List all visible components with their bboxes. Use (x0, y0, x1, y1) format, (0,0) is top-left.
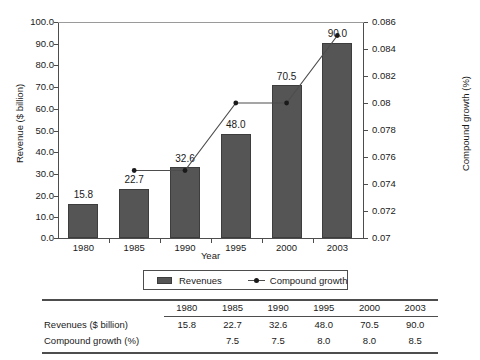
table-col-header-1985: 1985 (210, 300, 256, 317)
growth-marker-1995 (233, 101, 238, 106)
table-col-header-1980: 1980 (164, 300, 210, 317)
table-row-label-revenues: Revenues ($ billion) (42, 317, 164, 334)
legend-item-compound-growth: Compound growth (248, 275, 348, 286)
table-bottom-rule (42, 352, 438, 354)
legend-swatch-line-icon (248, 276, 265, 285)
table-row-label-compound-growth: Compound growth (%) (42, 333, 164, 349)
legend-label-revenues: Revenues (179, 275, 222, 286)
table-col-header-1990: 1990 (255, 300, 301, 317)
table-cell-revenues-1995: 48.0 (301, 317, 347, 334)
table-cell-growth-2003: 8.5 (392, 333, 438, 349)
table-corner-cell (42, 300, 164, 317)
table-cell-growth-1995: 8.0 (301, 333, 347, 349)
compound-growth-line (0, 0, 480, 268)
legend-swatch-bar-icon (157, 277, 172, 284)
table-cell-revenues-2003: 90.0 (392, 317, 438, 334)
table-col-header-2003: 2003 (392, 300, 438, 317)
table-cell-revenues-1980: 15.8 (164, 317, 210, 334)
table-col-header-1995: 1995 (301, 300, 347, 317)
growth-marker-1985 (132, 168, 137, 173)
table-cell-growth-1990: 7.5 (255, 333, 301, 349)
table-cell-growth-1985: 7.5 (210, 333, 256, 349)
chart-legend: Revenues Compound growth (143, 270, 348, 290)
table-header-row: 1980 1985 1990 1995 2000 2003 (42, 300, 438, 317)
table-cell-revenues-1985: 22.7 (210, 317, 256, 334)
chart-figure: Revenue ($ billion) Compound growth (%) … (0, 0, 480, 268)
legend-label-compound-growth: Compound growth (270, 275, 348, 286)
legend-item-revenues: Revenues (157, 275, 222, 286)
data-table: 1980 1985 1990 1995 2000 2003 Revenues (… (42, 300, 438, 349)
table-cell-revenues-1990: 32.6 (255, 317, 301, 334)
table-row: Revenues ($ billion) 15.8 22.7 32.6 48.0… (42, 317, 438, 334)
table-col-header-2000: 2000 (347, 300, 393, 317)
table-cell-growth-1980 (164, 333, 210, 349)
table-cell-revenues-2000: 70.5 (347, 317, 393, 334)
table-cell-growth-2000: 8.0 (347, 333, 393, 349)
growth-marker-1990 (183, 168, 188, 173)
table-row: Compound growth (%) 7.5 7.5 8.0 8.0 8.5 (42, 333, 438, 349)
growth-marker-2000 (284, 101, 289, 106)
growth-marker-2003 (335, 33, 340, 38)
